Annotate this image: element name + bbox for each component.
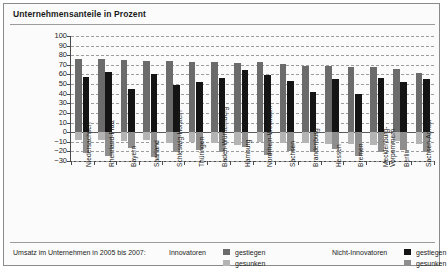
bar-innovatoren-gesunken [348, 132, 355, 144]
bar-innovatoren-gesunken [98, 132, 105, 140]
bar-nicht-innovatoren-gestiegen [355, 94, 362, 132]
y-tick-mark [67, 84, 71, 85]
bar-innovatoren-gestiegen [189, 62, 196, 132]
x-axis-label: Saarland [153, 140, 160, 167]
bar-innovatoren-gesunken [75, 132, 82, 140]
x-tick-mark [139, 161, 140, 165]
x-axis-label: Sachsen-Anhalt [425, 120, 432, 167]
y-tick-label: 80 [43, 51, 67, 58]
x-tick-mark [298, 161, 299, 165]
x-tick-mark [253, 161, 254, 165]
gridline [71, 36, 434, 37]
y-tick-label: −30 [43, 157, 67, 164]
bar-nicht-innovatoren-gestiegen [128, 89, 135, 132]
y-tick-mark [67, 113, 71, 114]
y-tick-label: −10 [43, 138, 67, 145]
y-tick-label: 100 [43, 32, 67, 39]
x-axis-label: Bayern [130, 146, 137, 167]
bar-innovatoren-gestiegen [166, 61, 173, 132]
legend-swatch [404, 260, 411, 266]
x-tick-mark [321, 161, 322, 165]
x-tick-mark [411, 161, 412, 165]
x-axis-label: Berlin [403, 150, 410, 167]
x-tick-mark [434, 161, 435, 165]
x-tick-mark [162, 161, 163, 165]
plot-area: 1009080706050403020100−10−20−30 Niedersa… [4, 28, 441, 233]
y-tick-label: 10 [43, 119, 67, 126]
bar-innovatoren-gestiegen [143, 61, 150, 132]
y-tick-label: 30 [43, 99, 67, 106]
x-axis-label: Hessen [335, 144, 342, 167]
bar-innovatoren-gesunken [211, 132, 218, 143]
x-tick-mark [94, 161, 95, 165]
y-tick-mark [67, 103, 71, 104]
x-axis-label: Niedersachsen [85, 122, 92, 167]
bar-innovatoren-gestiegen [75, 59, 82, 132]
legend-swatch [223, 249, 230, 255]
bar-nicht-innovatoren-gestiegen [287, 81, 294, 132]
y-tick-mark [67, 123, 71, 124]
x-axis-label: Schleswig-Holstein [176, 110, 183, 167]
bar-innovatoren-gestiegen [370, 67, 377, 132]
x-tick-mark [366, 161, 367, 165]
x-axis-label: Baden-Württemberg [221, 107, 228, 167]
x-axis-label: Brandenburg [312, 128, 319, 167]
x-axis-label: Mecklenburg-Vorpommern [382, 126, 396, 167]
bar-innovatoren-gesunken [416, 132, 423, 144]
y-tick-label: 20 [43, 109, 67, 116]
gridline [71, 46, 434, 47]
bar-innovatoren-gesunken [121, 132, 128, 141]
bar-innovatoren-gesunken [143, 132, 150, 140]
bar-innovatoren-gesunken [257, 132, 264, 142]
legend-entry-label: gestiegen [416, 249, 446, 256]
title-divider [10, 24, 435, 25]
y-tick-label: −20 [43, 147, 67, 154]
bar-innovatoren-gestiegen [257, 62, 264, 132]
bar-innovatoren-gestiegen [280, 64, 287, 132]
x-tick-mark [71, 161, 72, 165]
bar-innovatoren-gestiegen [211, 62, 218, 132]
y-tick-label: 70 [43, 61, 67, 68]
x-tick-mark [184, 161, 185, 165]
y-tick-label: 50 [43, 80, 67, 87]
y-tick-mark [67, 46, 71, 47]
y-tick-mark [67, 36, 71, 37]
bar-innovatoren-gesunken [302, 132, 309, 143]
chart-frame: Unternehmensanteile in Prozent 100908070… [3, 3, 440, 266]
bar-nicht-innovatoren-gestiegen [151, 74, 158, 132]
bar-innovatoren-gestiegen [121, 60, 128, 132]
bar-innovatoren-gesunken [166, 132, 173, 143]
x-tick-mark [275, 161, 276, 165]
bar-innovatoren-gesunken [325, 132, 332, 144]
bar-nicht-innovatoren-gestiegen [378, 78, 385, 132]
bar-innovatoren-gesunken [234, 132, 241, 145]
bar-innovatoren-gestiegen [416, 73, 423, 133]
x-axis-label: Sachsen [289, 141, 296, 167]
bar-innovatoren-gestiegen [348, 67, 355, 132]
y-tick-label: 60 [43, 70, 67, 77]
y-tick-mark [67, 55, 71, 56]
x-axis-label: Thüringen [198, 137, 205, 167]
bar-nicht-innovatoren-gestiegen [196, 82, 203, 132]
legend-swatch [223, 260, 230, 266]
legend-caption: Umsatz im Unternehmen in 2005 bis 2007: [13, 249, 146, 256]
x-tick-mark [116, 161, 117, 165]
y-tick-mark [67, 94, 71, 95]
y-tick-mark [67, 151, 71, 152]
x-axis-label: Nordrhein-Westfalen [266, 106, 273, 167]
bar-nicht-innovatoren-gestiegen [332, 79, 339, 132]
legend-entry-label: gesunken [235, 260, 265, 267]
legend-entry-label: gesunken [416, 260, 446, 267]
bar-nicht-innovatoren-gesunken [400, 132, 407, 150]
page-title: Unternehmensanteile in Prozent [13, 9, 146, 19]
bar-nicht-innovatoren-gestiegen [242, 70, 249, 133]
x-axis-label: Rheinland-Pfalz [108, 120, 115, 167]
legend-group-label: Innovatoren [169, 249, 206, 256]
y-tick-mark [67, 65, 71, 66]
y-tick-mark [67, 132, 71, 133]
y-tick-label: 0 [43, 128, 67, 135]
legend-swatch [404, 249, 411, 255]
bar-innovatoren-gestiegen [234, 63, 241, 132]
y-tick-label: 90 [43, 42, 67, 49]
bar-nicht-innovatoren-gestiegen [400, 82, 407, 132]
